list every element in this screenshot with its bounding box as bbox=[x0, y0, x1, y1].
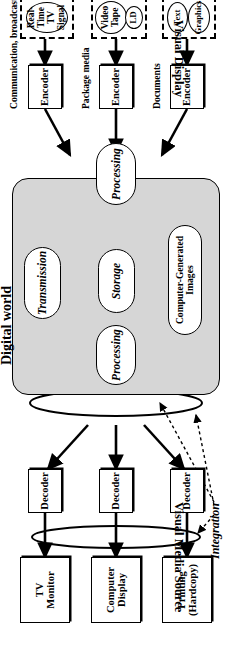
display-line2: (Hardcopy) bbox=[187, 564, 198, 616]
display-line1: Computer bbox=[105, 567, 116, 613]
figure-canvas: Digital world Processing Processing Tran… bbox=[0, 0, 231, 665]
integration-label: Integration bbox=[208, 503, 223, 559]
source-line1: Real-Time bbox=[27, 3, 47, 32]
source-group-communication-broadcast: Real-Time TV Signal bbox=[20, 0, 74, 39]
caption-visual-display: Visual Display bbox=[171, 20, 186, 97]
source-graphics[interactable]: Graphics bbox=[188, 2, 210, 33]
source-line2: TV Signal bbox=[47, 3, 67, 32]
display-line2: Display bbox=[116, 573, 127, 607]
display-line2: Monitor bbox=[45, 571, 56, 608]
source-video-tape[interactable]: Video Tape bbox=[95, 1, 127, 34]
source-group-label-package-media: Package media bbox=[80, 47, 91, 109]
encoder-2[interactable]: Encoder bbox=[99, 65, 133, 109]
display-computer-display[interactable]: Computer Display bbox=[91, 557, 141, 623]
source-group-label-communication: Communication, broadcast bbox=[8, 0, 19, 109]
display-line1: TV bbox=[34, 583, 45, 598]
decoder-2[interactable]: Decoder bbox=[99, 469, 133, 513]
caption-visual-media-source: Visual Media Source bbox=[171, 502, 186, 612]
source-group-label-documents: Documents bbox=[151, 63, 162, 109]
node-computer-generated-images[interactable]: Computer-Generated Images bbox=[168, 225, 202, 335]
rotated-diagram: Digital world Processing Processing Tran… bbox=[0, 0, 231, 665]
display-tv-monitor[interactable]: TV Monitor bbox=[20, 557, 70, 623]
source-real-time-tv-signal[interactable]: Real-Time TV Signal bbox=[26, 2, 68, 33]
digital-world-label: Digital world bbox=[0, 286, 15, 365]
node-processing-top[interactable]: Processing bbox=[96, 325, 136, 385]
source-group-package-media: Video Tape LD bbox=[91, 0, 147, 39]
node-storage[interactable]: Storage bbox=[98, 249, 135, 313]
decoder-1[interactable]: Decoder bbox=[28, 469, 62, 513]
source-ld[interactable]: LD bbox=[125, 6, 143, 29]
node-transmission[interactable]: Transmission bbox=[24, 247, 61, 319]
encoder-1[interactable]: Encoder bbox=[28, 65, 62, 109]
node-processing-bottom[interactable]: Processing bbox=[96, 143, 136, 205]
display-printing[interactable]: Printing (Hardcopy) bbox=[162, 557, 212, 623]
